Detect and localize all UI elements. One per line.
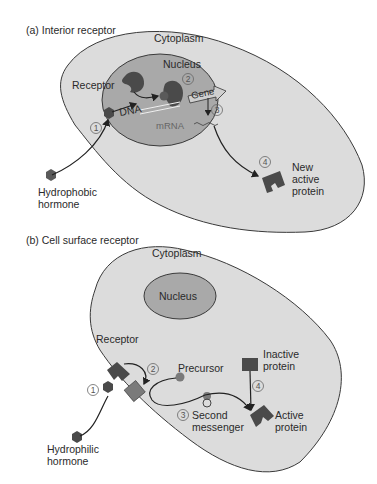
hydrophobic-hormone-label: Hydrophobic bbox=[38, 186, 97, 198]
panel-a: 1 2 3 4 (a) Interior receptor Cytoplasm … bbox=[26, 24, 364, 232]
hydrophobic-hormone-label-2: hormone bbox=[38, 198, 80, 210]
cytoplasm-label-b: Cytoplasm bbox=[152, 247, 202, 259]
hormone-hexagon-outside bbox=[46, 169, 56, 181]
inactive-protein-label-2: protein bbox=[263, 360, 295, 372]
second-messenger-label-2: messenger bbox=[192, 421, 244, 433]
mrna-label: mRNA bbox=[156, 120, 185, 131]
second-messenger-label-1: Second bbox=[192, 409, 228, 421]
hydrophilic-hormone-outside bbox=[72, 431, 82, 443]
nucleus-label-b: Nucleus bbox=[159, 290, 197, 302]
precursor-label: Precursor bbox=[178, 362, 224, 374]
hydrophilic-hormone-label-1: Hydrophilic bbox=[47, 443, 99, 455]
hydrophilic-hormone-label-2: hormone bbox=[47, 455, 89, 467]
svg-text:3: 3 bbox=[181, 410, 186, 420]
cytoplasm-label-a: Cytoplasm bbox=[154, 32, 204, 44]
hormone-receptor-diagram: 1 2 3 4 (a) Interior receptor Cytoplasm … bbox=[0, 0, 377, 484]
inactive-protein-label-1: Inactive bbox=[263, 348, 299, 360]
svg-text:2: 2 bbox=[151, 364, 156, 374]
inactive-protein bbox=[242, 358, 258, 371]
svg-text:4: 4 bbox=[256, 381, 261, 391]
svg-text:1: 1 bbox=[94, 123, 99, 133]
new-protein-label-3: protein bbox=[292, 185, 324, 197]
cell-b-membrane bbox=[90, 247, 341, 472]
panel-a-title: (a) Interior receptor bbox=[26, 24, 116, 36]
active-protein-label-1: Active bbox=[275, 409, 304, 421]
svg-text:3: 3 bbox=[215, 105, 220, 115]
receptor-label-b: Receptor bbox=[96, 333, 139, 345]
cell-a-membrane bbox=[61, 31, 365, 232]
panel-b-title: (b) Cell surface receptor bbox=[26, 234, 139, 246]
active-protein-label-2: protein bbox=[275, 421, 307, 433]
svg-text:4: 4 bbox=[263, 157, 268, 167]
hydrophilic-hormone-bound bbox=[103, 381, 113, 393]
svg-text:1: 1 bbox=[91, 385, 96, 395]
hormone-bound bbox=[160, 92, 169, 101]
step-1-b: 1 bbox=[88, 385, 99, 396]
receptor-label-a: Receptor bbox=[72, 79, 115, 91]
svg-text:2: 2 bbox=[186, 74, 191, 84]
nucleus-label-a: Nucleus bbox=[163, 58, 201, 70]
panel-b: 1 2 3 4 (b) Cell surface receptor Cytopl… bbox=[26, 234, 341, 472]
new-protein-label-2: active bbox=[292, 173, 320, 185]
new-protein-label-1: New bbox=[292, 161, 313, 173]
